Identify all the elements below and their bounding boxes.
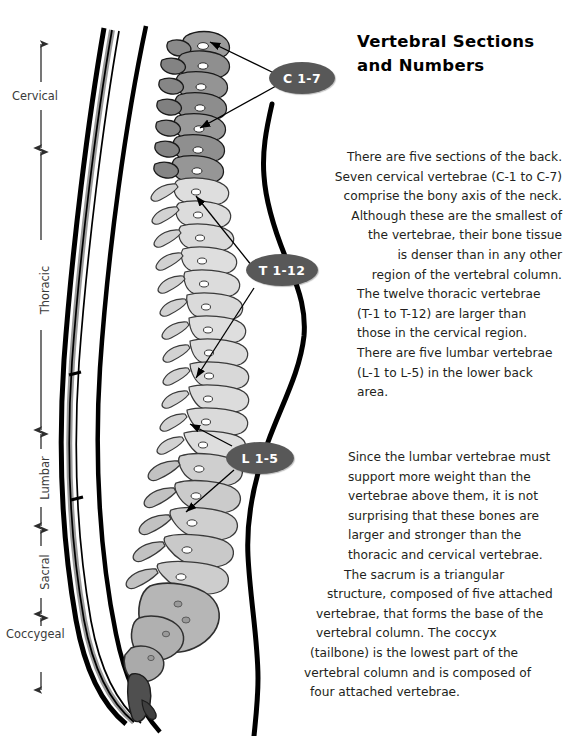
- paragraph-line: (T-1 to T-12) are larger than: [300, 305, 562, 325]
- paragraph-line: surprising that these bones are: [300, 507, 562, 527]
- paragraph-line: (L-1 to L-5) in the lower back: [300, 364, 562, 384]
- paragraph-line: region of the vertebral column.: [300, 266, 562, 286]
- paragraph-line: vertebrae above them, it is not: [300, 487, 562, 507]
- anterior-body-outline: [248, 104, 305, 736]
- paragraph-lumbar-sacrum-coccyx: Since the lumbar vertebrae must support …: [300, 448, 562, 703]
- lumbar-badge-label: L 1-5: [242, 451, 279, 466]
- paragraph-line: vertebral column. The coccyx: [300, 624, 562, 644]
- lumbar-badge[interactable]: L 1-5: [226, 442, 294, 474]
- vertebral-sections-diagram: Vertebral Sections and Numbers There are…: [0, 0, 565, 736]
- paragraph-line: vertebral column and is composed of: [300, 664, 562, 684]
- coccyx-group: [128, 674, 156, 722]
- section-label-cervical: Cervical: [10, 88, 60, 104]
- paragraph-line: comprise the bony axis of the neck.: [300, 187, 562, 207]
- paragraph-line: larger and stronger than the: [300, 526, 562, 546]
- paragraph-line: four attached vertebrae.: [300, 683, 562, 703]
- cervical-badge-label: C 1-7: [283, 71, 321, 86]
- paragraph-line: those in the cervical region.: [300, 324, 562, 344]
- paragraph-line: vertebrae, that forms the base of the: [300, 605, 562, 625]
- paragraph-line: The twelve thoracic vertebrae: [300, 285, 562, 305]
- cervical-vertebrae-group: [154, 32, 230, 184]
- paragraph-line: Since the lumbar vertebrae must: [300, 448, 562, 468]
- paragraph-line: The sacrum is a triangular: [300, 566, 562, 586]
- paragraph-line: area.: [300, 383, 562, 403]
- section-label-coccygeal: Coccygeal: [4, 626, 67, 642]
- thoracic-badge[interactable]: T 1-12: [246, 254, 318, 286]
- paragraph-line: Although these are the smallest of: [300, 207, 562, 227]
- lumbar-vertebrae-group: [126, 454, 242, 595]
- page-title-line-1: Vertebral Sections: [357, 30, 562, 54]
- paragraph-cervical-thoracic-lumbar: There are five sections of the back. Sev…: [300, 148, 562, 403]
- paragraph-line: (tailbone) is the lowest part of the: [300, 644, 562, 664]
- paragraph-line: There are five sections of the back.: [300, 148, 562, 168]
- paragraph-line: support more weight than the: [300, 468, 562, 488]
- paragraph-line: thoracic and cervical vertebrae.: [300, 546, 562, 566]
- paragraph-line: the vertebrae, their bone tissue: [300, 226, 562, 246]
- page-title: Vertebral Sections and Numbers: [357, 30, 562, 78]
- section-label-sacral: Sacral: [37, 546, 53, 598]
- page-title-line-2: and Numbers: [357, 54, 562, 78]
- section-label-lumbar: Lumbar: [37, 449, 53, 507]
- paragraph-line: Seven cervical vertebrae (C-1 to C-7): [300, 168, 562, 188]
- paragraph-line: is denser than in any other: [300, 246, 562, 266]
- cervical-badge[interactable]: C 1-7: [269, 62, 335, 94]
- sacrum-group: [124, 583, 219, 682]
- paragraph-line: structure, composed of five attached: [300, 585, 562, 605]
- paragraph-line: There are five lumbar vertebrae: [300, 344, 562, 364]
- section-label-thoracic: Thoracic: [37, 258, 53, 322]
- thoracic-badge-label: T 1-12: [259, 263, 306, 278]
